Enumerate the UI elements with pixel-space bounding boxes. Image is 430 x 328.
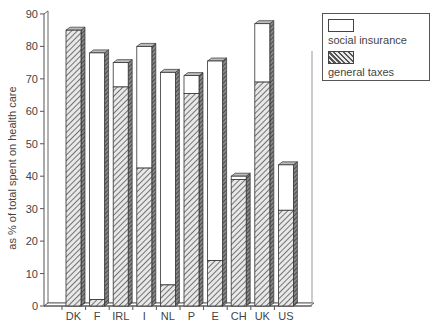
bar-DK: [66, 27, 85, 306]
x-tick-label: P: [188, 310, 195, 322]
legend-label-social-insurance: social insurance: [328, 34, 407, 46]
bar-I: [137, 43, 156, 306]
y-tick-label: 50: [26, 138, 38, 150]
segment-general-taxes: [184, 93, 199, 306]
segment-social-insurance: [208, 61, 223, 261]
segment-general-taxes: [113, 87, 128, 306]
bar-IRL: [113, 60, 132, 306]
y-tick-label: 20: [26, 235, 38, 247]
x-tick-label: UK: [255, 310, 271, 322]
y-tick-label: 90: [26, 8, 38, 20]
segment-social-insurance: [278, 165, 293, 210]
segment-general-taxes: [231, 179, 246, 306]
bar-CH: [231, 173, 250, 306]
y-tick-label: 10: [26, 268, 38, 280]
segment-general-taxes: [255, 82, 270, 306]
x-tick-label: CH: [231, 310, 247, 322]
segment-social-insurance: [160, 72, 175, 285]
segment-general-taxes: [208, 261, 223, 306]
segment-social-insurance: [255, 24, 270, 82]
y-axis-label: as % of total spent on health care: [6, 78, 18, 258]
y-tick-label: 40: [26, 170, 38, 182]
bars: [66, 21, 297, 306]
y-tick-label: 60: [26, 105, 38, 117]
y-tick-label: 0: [32, 300, 38, 312]
segment-social-insurance: [113, 63, 128, 87]
bar-UK: [255, 21, 274, 306]
y-tick-label: 80: [26, 40, 38, 52]
legend-label-general-taxes: general taxes: [328, 66, 394, 78]
segment-social-insurance: [90, 53, 105, 300]
bar-US: [278, 162, 297, 306]
x-tick-label: US: [278, 310, 293, 322]
segment-general-taxes: [278, 210, 293, 306]
segment-general-taxes: [137, 168, 152, 306]
segment-social-insurance: [137, 46, 152, 168]
legend-swatch-social-insurance: [328, 19, 354, 32]
y-tick-label: 70: [26, 73, 38, 85]
segment-general-taxes: [160, 285, 175, 306]
x-tick-label: DK: [66, 310, 82, 322]
x-tick-label: IRL: [112, 310, 129, 322]
segment-general-taxes: [90, 300, 105, 306]
bar-P: [184, 73, 203, 306]
x-tick-label: NL: [161, 310, 175, 322]
y-tick-label: 30: [26, 203, 38, 215]
segment-social-insurance: [184, 76, 199, 94]
legend-swatch-general-taxes: [328, 51, 354, 64]
x-tick-label: E: [211, 310, 218, 322]
segment-general-taxes: [66, 30, 81, 306]
x-tick-label: I: [143, 310, 146, 322]
bar-NL: [160, 69, 179, 306]
bar-F: [90, 50, 109, 306]
legend: social insurance general taxes: [322, 13, 430, 81]
x-tick-label: F: [94, 310, 101, 322]
segment-social-insurance: [231, 176, 246, 179]
bar-E: [208, 58, 227, 306]
